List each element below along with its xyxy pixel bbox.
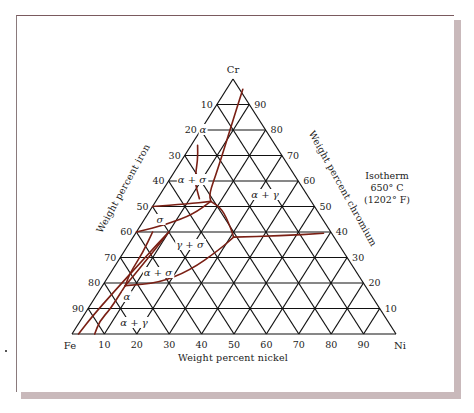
tick-nickel: 20 xyxy=(131,339,143,350)
tick-nickel: 30 xyxy=(163,339,175,350)
gridline-ni xyxy=(234,207,315,335)
tick-chromium: 60 xyxy=(303,175,315,186)
corner-label-cr: Cr xyxy=(227,64,240,75)
corner-label-fe: Fe xyxy=(64,340,76,351)
phase-region-label: α xyxy=(200,124,207,135)
phase-region-label: α xyxy=(124,291,131,302)
phase-region-label: σ xyxy=(157,214,165,225)
axis-ticks: 1020304050607080909080706050403020101020… xyxy=(72,99,397,351)
gridline-ni xyxy=(364,309,380,335)
phase-region-label: α + σ xyxy=(144,267,173,278)
tick-iron: 90 xyxy=(72,303,84,314)
phase-boundary-alpha-upper-left xyxy=(195,145,199,199)
tick-iron: 60 xyxy=(120,226,132,237)
tick-chromium: 30 xyxy=(352,252,364,263)
tick-nickel: 10 xyxy=(98,339,110,350)
tick-nickel: 50 xyxy=(228,339,240,350)
tick-iron: 50 xyxy=(136,201,148,212)
phase-region-label: γ + σ xyxy=(176,239,205,250)
tick-chromium: 20 xyxy=(368,277,380,288)
gridline-fe xyxy=(217,105,364,335)
tick-chromium: 40 xyxy=(336,226,348,237)
axis-label-nickel: Weight percent nickel xyxy=(178,352,288,363)
tick-chromium: 80 xyxy=(271,124,283,135)
tick-chromium: 70 xyxy=(287,150,299,161)
tick-nickel: 60 xyxy=(260,339,272,350)
phase-region-label: α + γ xyxy=(120,317,147,328)
tick-chromium: 50 xyxy=(320,201,332,212)
tick-nickel: 70 xyxy=(293,339,305,350)
ternary-diagram: 1020304050607080909080706050403020101020… xyxy=(0,0,474,413)
tick-iron: 80 xyxy=(88,277,100,288)
tick-iron: 40 xyxy=(153,175,165,186)
corner-label-ni: Ni xyxy=(394,340,406,351)
tick-nickel: 40 xyxy=(196,339,208,350)
tick-iron: 20 xyxy=(185,124,197,135)
tick-chromium: 90 xyxy=(254,99,266,110)
phase-region-label: α + σ xyxy=(178,174,207,185)
tick-nickel: 90 xyxy=(358,339,370,350)
phase-boundary-alpha-upper-right xyxy=(210,89,243,201)
tick-chromium: 10 xyxy=(385,303,397,314)
tick-iron: 30 xyxy=(169,150,181,161)
phase-region-label: α + γ xyxy=(251,189,278,200)
isotherm-note: Isotherm 650° C (1202° F) xyxy=(352,170,422,206)
phase-boundary-gamma-right xyxy=(234,233,324,237)
isotherm-celsius: 650° C xyxy=(352,182,422,194)
tick-iron: 70 xyxy=(104,252,116,263)
tick-nickel: 80 xyxy=(325,339,337,350)
isotherm-title: Isotherm xyxy=(352,170,422,182)
isotherm-fahrenheit: (1202° F) xyxy=(352,194,422,206)
tick-iron: 10 xyxy=(201,99,213,110)
